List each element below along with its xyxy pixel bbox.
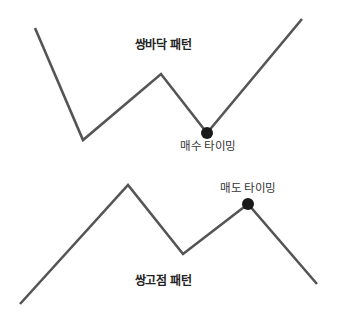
sell-timing-marker-icon [242, 198, 254, 210]
buy-timing-marker-icon [201, 127, 213, 139]
pattern-diagram-canvas: 쌍바닥 패턴 매수 타이밍 매도 타이밍 쌍고점 패턴 [0, 0, 339, 326]
sell-timing-label: 매도 타이밍 [220, 183, 276, 195]
double-top-title: 쌍고점 패턴 [135, 275, 191, 287]
double-bottom-title: 쌍바닥 패턴 [135, 39, 191, 51]
buy-timing-label: 매수 타이밍 [180, 141, 236, 153]
